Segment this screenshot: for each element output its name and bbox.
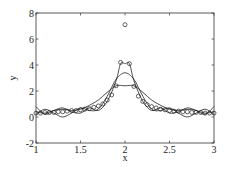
x-tick-label: 1	[34, 144, 39, 155]
x-axis-label: x	[123, 152, 128, 163]
y-tick-label: 2	[29, 86, 34, 97]
chart: 11.522.53-202468xy	[0, 0, 227, 171]
data-point	[56, 110, 60, 114]
data-point	[123, 23, 127, 27]
y-tick-label: 6	[29, 34, 34, 45]
x-tick-label: 2.5	[163, 144, 176, 155]
fit-curve	[36, 62, 214, 114]
data-point	[96, 104, 100, 108]
y-tick-label: 8	[29, 8, 34, 19]
y-tick-label: -2	[26, 138, 34, 149]
x-tick-label: 3	[212, 144, 217, 155]
data-point	[150, 105, 154, 109]
y-tick-label: 4	[29, 60, 34, 71]
data-point	[185, 110, 189, 114]
data-point	[61, 110, 65, 114]
y-axis-label: y	[7, 76, 18, 81]
fit-curve	[36, 85, 214, 113]
fit-curve	[36, 73, 214, 117]
data-point	[43, 110, 47, 114]
data-point	[190, 110, 194, 114]
data-point	[181, 110, 185, 114]
x-tick-label: 1.5	[74, 144, 87, 155]
data-point	[92, 105, 96, 109]
y-tick-label: 0	[29, 112, 34, 123]
plot-frame	[36, 13, 214, 143]
